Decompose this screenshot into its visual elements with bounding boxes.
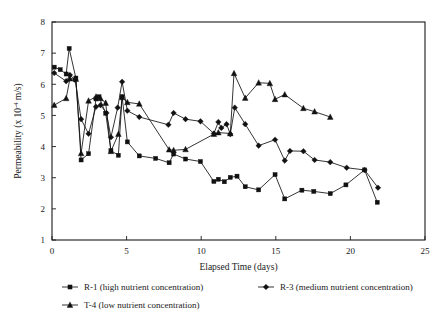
data-point-square bbox=[52, 65, 56, 69]
data-point-square bbox=[235, 174, 239, 178]
data-point-square bbox=[125, 140, 129, 144]
data-point-diamond bbox=[136, 114, 142, 120]
data-point-square bbox=[116, 153, 120, 157]
y-tick-label: 8 bbox=[41, 17, 46, 27]
data-point-diamond bbox=[183, 116, 189, 122]
data-point-triangle bbox=[272, 96, 278, 102]
data-point-square bbox=[137, 154, 141, 158]
series-r-3 bbox=[51, 70, 380, 190]
data-point-square bbox=[243, 185, 247, 189]
data-series-layer bbox=[51, 46, 380, 204]
data-point-diamond bbox=[282, 158, 288, 164]
y-tick-label: 1 bbox=[41, 235, 46, 245]
data-point-triangle bbox=[63, 95, 69, 101]
y-tick-label: 2 bbox=[41, 204, 46, 214]
data-point-square bbox=[79, 158, 83, 162]
y-axis-tick-labels: 12345678 bbox=[41, 17, 46, 245]
data-point-square bbox=[87, 152, 91, 156]
data-point-square bbox=[300, 188, 304, 192]
data-point-square bbox=[375, 200, 379, 204]
data-point-triangle bbox=[282, 91, 288, 97]
x-axis-ticks bbox=[52, 236, 425, 240]
series-r-1 bbox=[52, 46, 379, 204]
data-point-square bbox=[228, 175, 232, 179]
data-point-diamond bbox=[125, 108, 131, 114]
series-line-t-4 bbox=[54, 73, 330, 153]
data-point-square bbox=[212, 179, 216, 183]
x-axis-tick-labels: 0510152025 bbox=[50, 246, 430, 256]
legend-label: R-1 (high nutrient concentration) bbox=[84, 282, 203, 292]
data-point-square bbox=[222, 180, 226, 184]
data-point-diamond bbox=[224, 121, 230, 127]
legend-label: R-3 (medium nutrient concentration) bbox=[280, 282, 413, 292]
data-point-triangle bbox=[86, 98, 92, 104]
data-point-triangle bbox=[231, 70, 237, 76]
data-point-diamond bbox=[115, 105, 121, 111]
data-point-diamond bbox=[344, 165, 350, 171]
y-tick-label: 3 bbox=[41, 173, 46, 183]
legend-label: T-4 (low nutrient concentration) bbox=[84, 300, 199, 310]
legend-marker-diamond bbox=[263, 284, 269, 290]
data-point-diamond bbox=[272, 137, 278, 143]
data-point-triangle bbox=[166, 147, 172, 153]
data-point-diamond bbox=[166, 122, 172, 128]
series-line-r-3 bbox=[54, 73, 378, 188]
series-t-4 bbox=[51, 70, 333, 156]
y-tick-label: 7 bbox=[41, 48, 46, 58]
data-point-diamond bbox=[86, 131, 92, 137]
data-point-triangle bbox=[216, 129, 222, 135]
svg-text:Permeability (x 10-4 m/s): Permeability (x 10-4 m/s) bbox=[12, 83, 24, 178]
data-point-triangle bbox=[116, 131, 122, 137]
y-tick-label: 6 bbox=[41, 80, 46, 90]
data-point-square bbox=[344, 183, 348, 187]
x-tick-label: 15 bbox=[271, 246, 281, 256]
legend-marker-square bbox=[68, 285, 72, 289]
data-point-diamond bbox=[327, 159, 333, 165]
data-point-square bbox=[67, 46, 71, 50]
data-point-square bbox=[257, 188, 261, 192]
legend-entry-2[interactable]: T-4 (low nutrient concentration) bbox=[62, 300, 199, 310]
data-point-diamond bbox=[216, 119, 222, 125]
x-tick-label: 10 bbox=[197, 246, 207, 256]
y-axis-ticks bbox=[52, 22, 56, 240]
data-point-diamond bbox=[171, 110, 177, 116]
permeability-vs-elapsed-time-chart: 0510152025 12345678 Elapsed Time (days) … bbox=[0, 0, 447, 321]
data-point-diamond bbox=[119, 79, 125, 85]
data-point-diamond bbox=[256, 143, 262, 149]
data-point-square bbox=[312, 189, 316, 193]
data-point-triangle bbox=[183, 146, 189, 152]
data-point-square bbox=[216, 177, 220, 181]
x-tick-label: 5 bbox=[124, 246, 129, 256]
data-point-diamond bbox=[287, 148, 293, 154]
y-axis-title: Permeability (x 10-4 m/s) bbox=[12, 83, 24, 178]
data-point-square bbox=[154, 156, 158, 160]
data-point-square bbox=[167, 161, 171, 165]
data-point-triangle bbox=[301, 105, 307, 111]
data-point-square bbox=[183, 157, 187, 161]
data-point-square bbox=[273, 173, 277, 177]
y-tick-label: 5 bbox=[41, 111, 46, 121]
x-tick-label: 20 bbox=[346, 246, 356, 256]
y-tick-label: 4 bbox=[41, 142, 46, 152]
legend-entry-1[interactable]: R-3 (medium nutrient concentration) bbox=[258, 282, 413, 292]
data-point-diamond bbox=[232, 105, 238, 111]
data-point-triangle bbox=[78, 150, 84, 156]
data-point-square bbox=[283, 197, 287, 201]
x-tick-label: 0 bbox=[50, 246, 55, 256]
data-point-square bbox=[198, 159, 202, 163]
data-point-diamond bbox=[242, 121, 248, 127]
data-point-diamond bbox=[219, 125, 225, 131]
x-tick-label: 25 bbox=[421, 246, 431, 256]
x-axis-title: Elapsed Time (days) bbox=[199, 262, 277, 273]
data-point-square bbox=[58, 68, 62, 72]
legend-entry-0[interactable]: R-1 (high nutrient concentration) bbox=[62, 282, 203, 292]
data-point-triangle bbox=[256, 80, 262, 86]
chart-legend: R-1 (high nutrient concentration)R-3 (me… bbox=[62, 282, 413, 310]
y-axis-title-tail: m/s) bbox=[13, 83, 24, 102]
y-axis-title-main: Permeability (x 10 bbox=[13, 108, 24, 179]
data-point-square bbox=[328, 192, 332, 196]
